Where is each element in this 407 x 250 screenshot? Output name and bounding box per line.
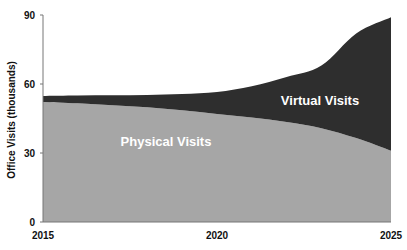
physical-visits-label: Physical Visits — [121, 134, 212, 149]
x-axis-ticks: 201520202025 — [32, 230, 403, 241]
y-tick-label: 0 — [29, 217, 35, 228]
y-tick-label: 90 — [24, 10, 36, 21]
y-tick-label: 60 — [24, 79, 36, 90]
stacked-area-chart: 0306090 201520202025 Office Visits (thou… — [0, 0, 407, 250]
y-axis-label: Office Visits (thousands) — [6, 61, 17, 179]
x-tick-label: 2020 — [206, 230, 229, 241]
virtual-visits-label: Virtual Visits — [281, 93, 359, 108]
y-axis-ticks: 0306090 — [24, 10, 43, 228]
y-tick-label: 30 — [24, 148, 36, 159]
x-tick-label: 2015 — [32, 230, 55, 241]
x-tick-label: 2025 — [380, 230, 403, 241]
plot-areas — [43, 17, 391, 222]
